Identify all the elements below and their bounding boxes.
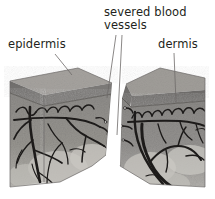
label-severed-line-2: vessels [104,18,147,32]
label-dermis: dermis [158,38,198,51]
label-severed-blood-vessels: severed bloodvessels [104,6,187,31]
label-epidermis: epidermis [8,38,66,51]
